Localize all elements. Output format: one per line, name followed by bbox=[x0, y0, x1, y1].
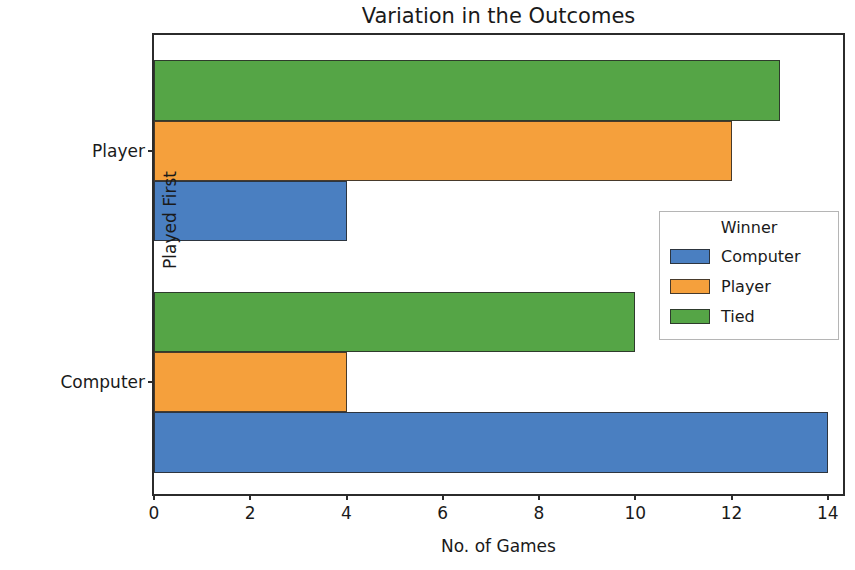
legend-label-tied: Tied bbox=[721, 307, 755, 326]
y-tick-label-computer: Computer bbox=[60, 372, 145, 392]
x-tick-mark bbox=[153, 494, 155, 500]
y-tick-mark bbox=[148, 381, 154, 383]
legend-swatch-computer bbox=[670, 249, 710, 264]
x-tick-mark bbox=[346, 494, 348, 500]
x-tick-mark bbox=[538, 494, 540, 500]
legend-item-computer[interactable]: Computer bbox=[670, 241, 828, 271]
page-title: Variation in the Outcomes bbox=[152, 2, 845, 30]
x-tick-mark bbox=[731, 494, 733, 500]
bar-computer-player bbox=[154, 181, 347, 241]
chart-figure: Variation in the Outcomes ComputerPlayer… bbox=[0, 0, 855, 570]
x-tick-label-2: 2 bbox=[245, 503, 256, 523]
x-tick-mark bbox=[442, 494, 444, 500]
y-tick-label-player: Player bbox=[92, 141, 145, 161]
x-tick-mark bbox=[827, 494, 829, 500]
legend-rows: ComputerPlayerTied bbox=[670, 241, 828, 331]
bar-player-computer bbox=[154, 352, 347, 412]
x-tick-label-0: 0 bbox=[149, 503, 160, 523]
bar-player-player bbox=[154, 121, 732, 181]
legend-item-player[interactable]: Player bbox=[670, 271, 828, 301]
bar-computer-computer bbox=[154, 412, 828, 472]
legend-swatch-player bbox=[670, 279, 710, 294]
x-tick-label-6: 6 bbox=[437, 503, 448, 523]
x-tick-label-10: 10 bbox=[624, 503, 646, 523]
y-tick-mark bbox=[148, 150, 154, 152]
bar-tied-player bbox=[154, 60, 780, 120]
x-tick-mark bbox=[634, 494, 636, 500]
x-tick-label-8: 8 bbox=[534, 503, 545, 523]
legend-item-tied[interactable]: Tied bbox=[670, 301, 828, 331]
y-axis-label: Played First bbox=[160, 120, 180, 320]
legend-title: Winner bbox=[670, 218, 828, 237]
bar-tied-computer bbox=[154, 292, 635, 352]
legend: Winner ComputerPlayerTied bbox=[659, 211, 839, 340]
x-tick-label-4: 4 bbox=[341, 503, 352, 523]
legend-label-player: Player bbox=[721, 277, 771, 296]
x-tick-label-12: 12 bbox=[721, 503, 743, 523]
x-tick-label-14: 14 bbox=[817, 503, 839, 523]
x-tick-mark bbox=[249, 494, 251, 500]
x-axis-label: No. of Games bbox=[152, 536, 845, 556]
legend-swatch-tied bbox=[670, 309, 710, 324]
legend-label-computer: Computer bbox=[721, 247, 801, 266]
